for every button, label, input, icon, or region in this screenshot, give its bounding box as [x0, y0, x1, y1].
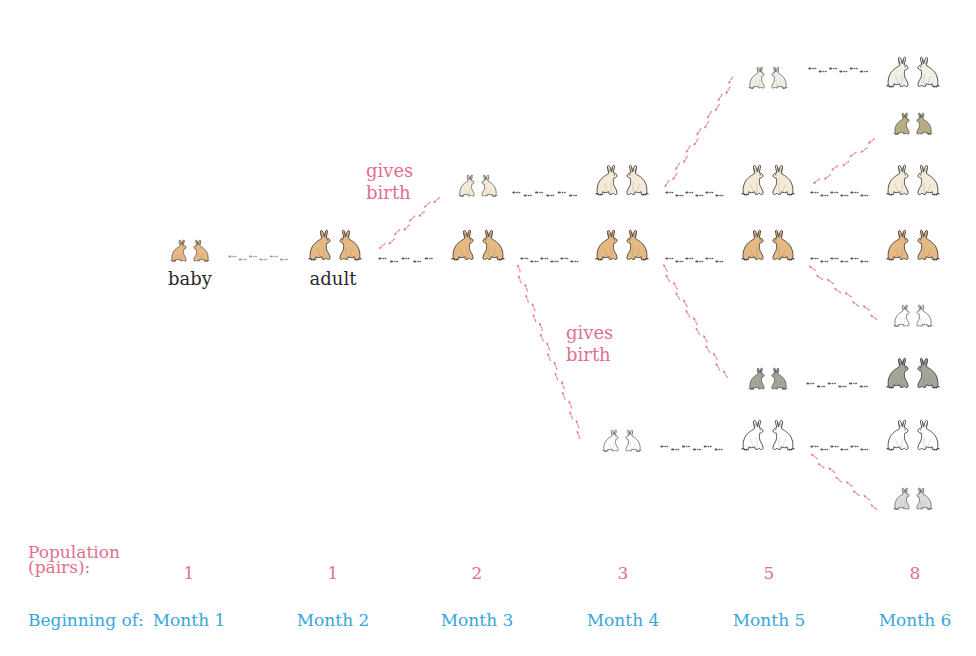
birth-track	[813, 138, 876, 185]
gives-birth-line2: birth	[566, 344, 613, 366]
age-track	[810, 445, 868, 450]
rabbit-pair-icon	[887, 358, 940, 388]
rabbits-layer	[171, 57, 940, 509]
rabbit-pair-icon	[749, 368, 788, 390]
gives-birth-line2: birth	[366, 182, 413, 204]
rabbit-pair-icon	[452, 230, 505, 260]
age-track	[665, 257, 723, 262]
rabbit-pair-icon	[459, 175, 498, 197]
age-track	[665, 191, 723, 196]
rabbit-pair-icon	[596, 230, 649, 260]
month-label-6: Month 6	[879, 610, 952, 630]
age-track	[810, 257, 868, 262]
baby-track	[228, 255, 288, 260]
rabbit-pair-icon	[749, 67, 788, 89]
rabbit-pair-icon	[171, 240, 210, 262]
age-track	[806, 382, 867, 387]
stage-label-adult: adult	[310, 268, 357, 289]
age-track	[660, 445, 722, 450]
rabbit-pair-icon	[887, 165, 940, 195]
gives-birth-annotation-1: gives birth	[366, 160, 413, 204]
population-title-line2: (pairs):	[28, 560, 120, 575]
rabbit-pair-icon	[894, 305, 933, 327]
rabbit-pair-icon	[887, 420, 940, 450]
rabbit-diagram-canvas	[0, 0, 976, 656]
gives-birth-line1: gives	[366, 160, 413, 182]
rabbit-pair-icon	[742, 420, 795, 450]
age-track	[512, 191, 577, 196]
gives-birth-line1: gives	[566, 322, 613, 344]
rabbit-pair-icon	[894, 488, 933, 510]
population-row-title: Population (pairs):	[28, 545, 120, 575]
month-label-4: Month 4	[587, 610, 660, 630]
month-label-3: Month 3	[441, 610, 514, 630]
population-value-month-1: 1	[184, 563, 195, 583]
stage-label-baby: baby	[168, 268, 212, 289]
birth-track	[663, 264, 729, 378]
birth-track	[664, 76, 734, 187]
population-value-month-4: 3	[618, 563, 629, 583]
month-label-2: Month 2	[297, 610, 370, 630]
rabbit-pair-icon	[603, 430, 642, 452]
beginning-of-title: Beginning of:	[28, 610, 144, 630]
month-label-1: Month 1	[153, 610, 226, 630]
population-value-month-3: 2	[472, 563, 483, 583]
rabbit-pair-icon	[742, 165, 795, 195]
age-track	[808, 67, 868, 72]
age-track	[520, 257, 578, 262]
rabbit-pair-icon	[596, 165, 649, 195]
rabbit-pair-icon	[309, 230, 362, 260]
age-track	[810, 191, 868, 196]
rabbit-pair-icon	[887, 230, 940, 260]
birth-track	[378, 197, 440, 250]
population-value-month-5: 5	[764, 563, 775, 583]
population-value-month-2: 1	[328, 563, 339, 583]
gives-birth-annotation-2: gives birth	[566, 322, 613, 366]
rabbit-pair-icon	[887, 57, 940, 87]
rabbit-pair-icon	[742, 230, 795, 260]
age-track	[378, 257, 433, 262]
rabbit-pair-icon	[894, 113, 933, 135]
birth-track	[808, 265, 877, 320]
population-value-month-6: 8	[910, 563, 921, 583]
month-label-5: Month 5	[733, 610, 806, 630]
birth-track	[810, 453, 877, 510]
